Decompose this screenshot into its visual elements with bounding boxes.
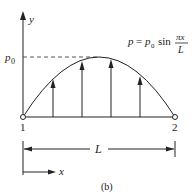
- node-2-circle-icon: [173, 115, 178, 120]
- dimension-label: L: [94, 142, 102, 156]
- svg-text:p: p: [144, 35, 151, 47]
- sinusoidal-load-curve: [23, 57, 175, 117]
- y-axis-arrowhead-icon: [20, 11, 26, 20]
- load-arrow-icon: [109, 59, 114, 68]
- svg-text:sin: sin: [158, 35, 171, 47]
- x-direction: x: [23, 165, 64, 177]
- load-formula: p = p 0 sin πx L: [127, 32, 188, 55]
- y-axis-label: y: [28, 13, 34, 25]
- x-arrow-icon: [48, 170, 56, 175]
- svg-text:p: p: [4, 51, 11, 63]
- dimension-arrow-right-icon: [166, 147, 174, 152]
- svg-text:0: 0: [151, 42, 155, 50]
- peak-label: p 0: [4, 51, 15, 66]
- length-dimension: L: [23, 141, 175, 175]
- x-axis-label: x: [58, 165, 64, 177]
- beam-sinusoidal-load-diagram: y p 0 p = p 0 sin πx L 1 2: [0, 0, 194, 194]
- dimension-arrow-left-icon: [24, 147, 32, 152]
- svg-text:πx: πx: [176, 32, 185, 42]
- node-1-label: 1: [20, 121, 26, 133]
- load-arrows: [51, 59, 143, 117]
- node-1-circle-icon: [21, 115, 26, 120]
- load-arrow-icon: [80, 61, 85, 70]
- node-2-label: 2: [172, 121, 178, 133]
- y-axis: [20, 11, 26, 117]
- svg-text:L: L: [177, 44, 184, 55]
- svg-text:0: 0: [11, 57, 15, 66]
- svg-text:=: =: [136, 35, 142, 47]
- load-arrow-icon: [138, 76, 143, 85]
- svg-text:p: p: [127, 35, 134, 47]
- figure-caption: (b): [101, 181, 113, 193]
